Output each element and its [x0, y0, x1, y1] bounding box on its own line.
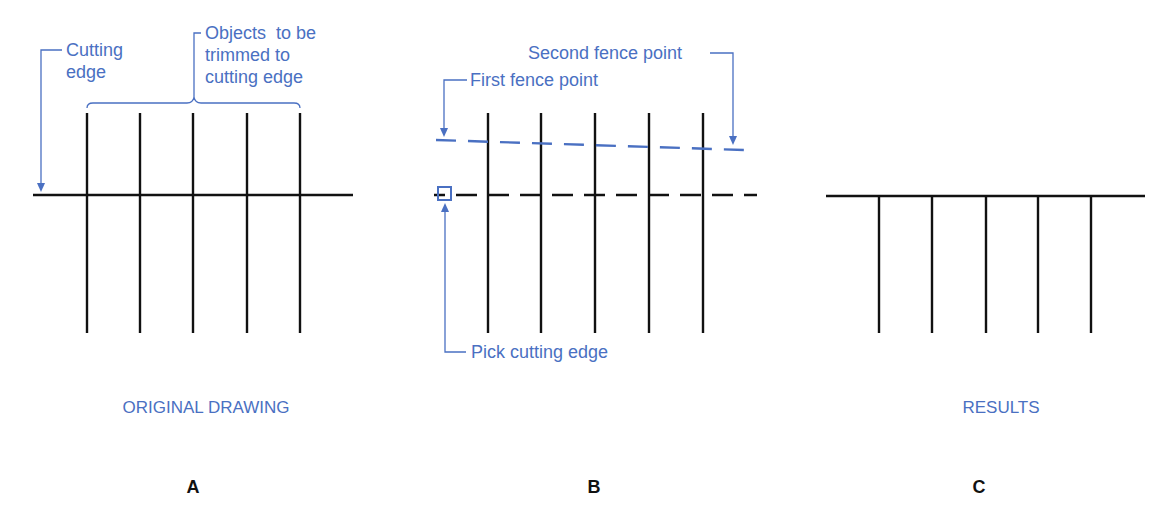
arrow-icon [37, 183, 45, 192]
second-fence-leader [710, 53, 733, 138]
label-line: trimmed to [205, 44, 316, 66]
label-line: Cutting [66, 39, 123, 61]
pick-box-icon [438, 187, 451, 200]
panel-letter-b: B [588, 477, 601, 498]
brace-icon [87, 97, 300, 108]
panel-b-drawing [434, 113, 757, 333]
cutting-edge-label: Cutting edge [66, 39, 123, 83]
caption-original-drawing: ORIGINAL DRAWING [123, 398, 290, 418]
label-line: Objects to be [205, 22, 316, 44]
objects-label: Objects to be trimmed to cutting edge [205, 22, 316, 88]
panel-c-drawing [826, 196, 1145, 333]
second-fence-label: Second fence point [528, 42, 682, 64]
label-line: edge [66, 61, 123, 83]
panel-a-drawing [33, 113, 353, 333]
arrow-icon [440, 128, 448, 137]
fence-line [436, 140, 744, 150]
label-line: cutting edge [205, 66, 316, 88]
panel-letter-c: C [973, 477, 986, 498]
first-fence-label: First fence point [470, 69, 598, 91]
arrow-icon [441, 203, 449, 212]
pick-edge-leader [445, 212, 466, 352]
pick-edge-label: Pick cutting edge [471, 341, 608, 363]
objects-leader [194, 33, 201, 97]
arrow-icon [729, 136, 737, 145]
panel-b-annotations [436, 53, 744, 352]
caption-results: RESULTS [962, 398, 1039, 418]
cutting-edge-leader [41, 50, 62, 186]
first-fence-leader [444, 80, 467, 131]
panel-letter-a: A [187, 477, 200, 498]
